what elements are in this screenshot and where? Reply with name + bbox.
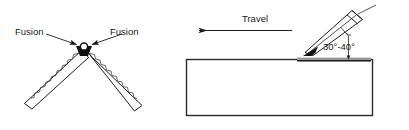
travel-label: Travel (242, 13, 268, 24)
welding-diagram-figure: Fusion Fusion Travel (0, 0, 409, 130)
plate-right-hatching (90, 54, 137, 99)
plate-right-outline (86, 50, 142, 111)
torch-rear-stub (358, 5, 376, 14)
plate-right (86, 50, 142, 111)
fusion-label-right: Fusion (110, 26, 139, 37)
fusion-leader-left (46, 34, 77, 45)
fusion-nugget-icon (80, 43, 87, 50)
angle-arc (346, 33, 352, 35)
diagram-canvas: Fusion Fusion Travel (0, 0, 409, 130)
right-panel-group: Travel 30°-40 (187, 5, 377, 116)
plate-left (25, 50, 89, 109)
travel-arrow-group: Travel (199, 13, 292, 31)
plate-left-outline (25, 50, 89, 109)
left-panel-group: Fusion Fusion (15, 26, 142, 111)
weld-bead-icon (297, 57, 371, 61)
angle-label: 30°-40° (323, 41, 355, 52)
workpiece-rect (187, 60, 373, 116)
fusion-label-left: Fusion (15, 26, 44, 37)
